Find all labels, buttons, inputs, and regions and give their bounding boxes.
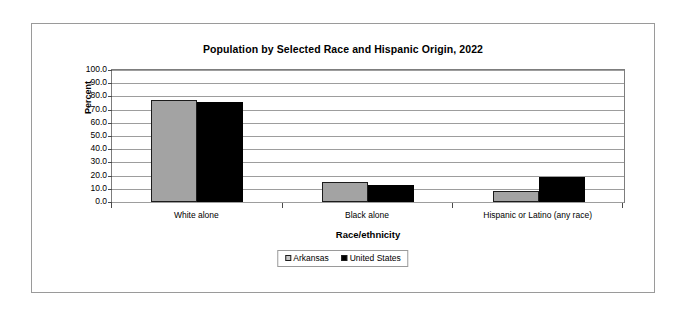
legend-item: United States [342,253,401,263]
legend-label: United States [350,253,401,263]
y-axis-tick-label: 100.0 [67,64,107,74]
chart-legend: ArkansasUnited States [277,250,408,267]
x-axis-ticks [111,203,625,208]
x-axis-tick-label: Black alone [345,210,389,220]
y-axis-tick [108,162,112,163]
x-axis-tick-label: Hispanic or Latino (any race) [483,210,592,220]
x-axis-title: Race/ethnicity [111,229,625,240]
x-axis-tick [111,203,112,208]
y-axis-tick [108,110,112,111]
y-axis-tick [108,176,112,177]
legend-swatch-icon [342,255,348,261]
y-axis-tick [108,83,112,84]
y-axis-tick-label: 60.0 [67,117,107,127]
y-axis-tick-label: 70.0 [67,104,107,114]
y-axis-tick-label: 20.0 [67,170,107,180]
chart-title: Population by Selected Race and Hispanic… [32,43,654,55]
x-axis-tick [452,203,453,208]
plot-area [111,69,625,203]
legend-item: Arkansas [285,253,328,263]
x-axis-tick-label: White alone [174,210,219,220]
y-axis-tick-label: 40.0 [67,143,107,153]
bar [197,102,243,202]
y-axis-tick-label: 50.0 [67,130,107,140]
y-axis-tick [108,96,112,97]
bar [322,182,368,202]
legend-label: Arkansas [293,253,328,263]
y-axis-tick-label: 80.0 [67,90,107,100]
bar-group [493,70,585,202]
bar [368,185,414,202]
x-axis-tick-labels: White aloneBlack aloneHispanic or Latino… [111,210,625,224]
y-axis-tick [108,189,112,190]
bar-group [151,70,243,202]
y-axis-tick [108,70,112,71]
bar [493,191,539,202]
y-axis-tick [108,149,112,150]
y-axis-tick-label: 90.0 [67,77,107,87]
chart-figure: Population by Selected Race and Hispanic… [31,23,655,293]
y-axis-tick-label: 0.0 [67,196,107,206]
y-axis-tick-label: 30.0 [67,156,107,166]
bar-group [322,70,414,202]
x-axis-tick [622,203,623,208]
x-axis-tick [282,203,283,208]
y-axis-tick [108,136,112,137]
y-axis-tick [108,123,112,124]
y-axis-tick-label: 10.0 [67,183,107,193]
y-axis-tick-labels: 0.010.020.030.040.050.060.070.080.090.01… [62,69,107,203]
bar [539,177,585,202]
bar [151,100,197,202]
legend-swatch-icon [285,255,291,261]
